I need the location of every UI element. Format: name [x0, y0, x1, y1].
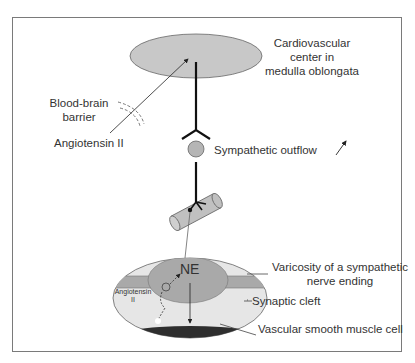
bbb-line-2: barrier — [45, 110, 113, 124]
varicosity-line-2: nerve ending — [265, 274, 415, 288]
cardiovascular-center-label: Cardiovascular center in medulla oblonga… — [262, 36, 362, 78]
vascular-smooth-muscle-label: Vascular smooth muscle cell — [258, 322, 403, 336]
sympathetic-outflow-arrow — [336, 141, 346, 155]
bbb-line-1: Blood-brain — [45, 96, 113, 110]
ganglion-circle — [188, 141, 204, 157]
sympathetic-outflow-label: Sympathetic outflow — [214, 143, 317, 157]
cv-line-3: medulla oblongata — [262, 64, 362, 78]
angiotensin-small-line-1: Angiotensin — [113, 288, 153, 296]
angiotensin-small-line-2: II — [113, 296, 153, 304]
synaptic-cleft-label: Synaptic cleft — [252, 294, 320, 308]
cv-line-1: Cardiovascular — [262, 36, 362, 50]
angiotensin-small-label: Angiotensin II — [113, 288, 153, 304]
angiotensin-label: Angiotensin II — [54, 136, 124, 150]
varicosity-label: Varicosity of a sympathetic nerve ending — [265, 260, 415, 288]
ne-label: NE — [180, 262, 199, 276]
synapse-fork — [182, 130, 210, 139]
cv-line-2: center in — [262, 50, 362, 64]
blood-brain-barrier-label: Blood-brain barrier — [45, 96, 113, 124]
varicosity-line-1: Varicosity of a sympathetic — [265, 260, 415, 274]
